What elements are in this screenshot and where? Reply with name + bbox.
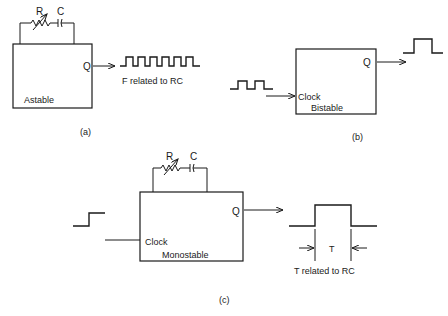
- bistable-label: Bistable: [311, 103, 343, 113]
- input-clock-wave-icon: [230, 81, 273, 89]
- panel-b-bistable: Clock Bistable Q (b): [230, 39, 443, 142]
- output-pulse-icon-c: [289, 205, 377, 226]
- output-q-label-b: Q: [363, 57, 371, 68]
- waveform-caption-a: F related to RC: [122, 76, 184, 86]
- variable-resistor-icon: [31, 20, 58, 26]
- clock-label-c: Clock: [145, 237, 168, 247]
- capacitor-label: C: [57, 6, 64, 17]
- multivibrator-diagram: R C Q F related to RC Astable (a) Clock …: [0, 0, 448, 316]
- output-q-label: Q: [83, 61, 91, 72]
- caption-c: (c): [219, 295, 230, 305]
- caption-a: (a): [80, 127, 91, 137]
- square-wave-icon: [120, 57, 200, 66]
- panel-a-astable: R C Q F related to RC Astable (a): [13, 6, 200, 137]
- resistor-label-c: R: [166, 151, 173, 162]
- astable-label: Astable: [24, 95, 54, 105]
- rc-network-a: [20, 14, 74, 44]
- output-q-label-c: Q: [232, 206, 240, 217]
- capacitor-label-c: C: [190, 151, 197, 162]
- clock-label-b: Clock: [298, 92, 321, 102]
- variable-resistor-icon-c: [161, 165, 190, 171]
- waveform-caption-c: T related to RC: [294, 266, 355, 276]
- pulse-width-label: T: [329, 244, 335, 254]
- monostable-label: Monostable: [162, 250, 209, 260]
- panel-c-monostable: R C Clock Monostable Q T T related to RC…: [73, 151, 377, 305]
- resistor-label: R: [36, 6, 43, 17]
- output-pulse-icon: [403, 39, 443, 53]
- caption-b: (b): [352, 132, 363, 142]
- input-step-icon: [73, 213, 105, 226]
- rc-network-c: [153, 159, 207, 192]
